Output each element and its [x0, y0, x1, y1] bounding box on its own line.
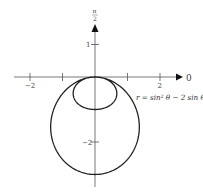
polar-plot: 0 π 2 −221−2 r = sin² θ − 2 sin θ [0, 0, 203, 193]
y-tick-label: −2 [82, 139, 92, 147]
polar-axis-arrow-icon [176, 74, 183, 81]
pi-numerator: π [93, 7, 97, 14]
vertical-axis-label: π 2 [92, 7, 98, 22]
polar-axis-label: 0 [186, 73, 192, 83]
pi-denominator: 2 [93, 15, 97, 22]
x-tick-label: −2 [25, 82, 35, 90]
x-tick-label: 2 [158, 82, 162, 90]
vertical-axis-arrow-icon [92, 24, 99, 32]
y-tick-label: 1 [86, 41, 90, 49]
equation-label: r = sin² θ − 2 sin θ [136, 93, 203, 102]
